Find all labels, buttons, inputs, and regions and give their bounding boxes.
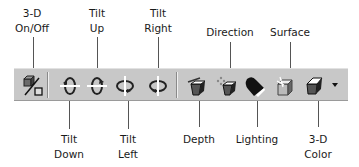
label-line: Left xyxy=(118,147,138,162)
tilt-right-button[interactable] xyxy=(147,75,169,97)
label-3d-color: 3-D Color xyxy=(304,132,331,162)
leader-line xyxy=(69,101,70,129)
label-line: Tilt xyxy=(54,132,84,147)
3d-color-button[interactable] xyxy=(304,75,326,97)
leader-line xyxy=(199,101,200,127)
label-line: Color xyxy=(304,147,331,162)
depth-button[interactable] xyxy=(186,75,208,97)
label-line: 3-D xyxy=(15,6,49,21)
label-line: Direction xyxy=(206,25,253,40)
direction-icon xyxy=(216,75,238,97)
toolbar-separator xyxy=(176,72,178,98)
label-line: Tilt xyxy=(144,6,172,21)
direction-button[interactable] xyxy=(216,75,238,97)
label-lighting: Lighting xyxy=(236,132,278,147)
label-tilt-left: Tilt Left xyxy=(118,132,138,162)
lighting-icon xyxy=(244,75,266,97)
leader-line xyxy=(318,101,319,127)
label-line: Depth xyxy=(183,132,215,147)
depth-icon xyxy=(186,75,208,97)
label-line: Up xyxy=(89,21,105,36)
label-tilt-down: Tilt Down xyxy=(54,132,84,162)
label-line: Right xyxy=(144,21,172,36)
tilt-left-button[interactable] xyxy=(114,75,136,97)
label-line: Tilt xyxy=(118,132,138,147)
lighting-button[interactable] xyxy=(244,75,266,97)
label-line: Down xyxy=(54,147,84,162)
tilt-left-icon xyxy=(114,75,136,97)
3d-color-dropdown-arrow[interactable] xyxy=(332,83,338,87)
leader-line xyxy=(128,101,129,129)
toolbar-separator xyxy=(47,72,49,98)
surface-icon xyxy=(274,75,296,97)
3d-color-icon xyxy=(304,75,326,97)
label-direction: Direction xyxy=(206,25,253,40)
3d-settings-toolbar xyxy=(14,68,348,101)
tilt-down-icon xyxy=(59,75,81,97)
label-line: Lighting xyxy=(236,132,278,147)
label-line: Tilt xyxy=(89,6,105,21)
label-line: On/Off xyxy=(15,21,49,36)
label-3d-on-off: 3-D On/Off xyxy=(15,6,49,36)
tilt-up-button[interactable] xyxy=(86,75,108,97)
3d-on-off-button[interactable] xyxy=(22,75,44,97)
tilt-right-icon xyxy=(147,75,169,97)
label-tilt-right: Tilt Right xyxy=(144,6,172,36)
leader-line xyxy=(257,101,258,127)
tilt-down-button[interactable] xyxy=(59,75,81,97)
label-tilt-up: Tilt Up xyxy=(89,6,105,36)
label-depth: Depth xyxy=(183,132,215,147)
3d-on-off-icon xyxy=(22,75,44,97)
label-line: 3-D xyxy=(304,132,331,147)
label-surface: Surface xyxy=(270,25,310,40)
surface-button[interactable] xyxy=(274,75,296,97)
tilt-up-icon xyxy=(86,75,108,97)
label-line: Surface xyxy=(270,25,310,40)
